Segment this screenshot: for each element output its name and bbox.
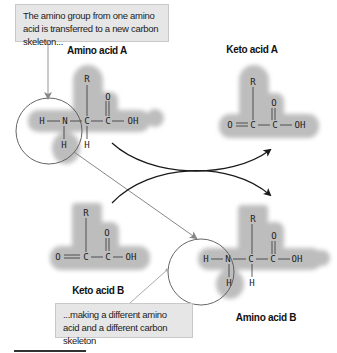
label-amino-acid-b: Amino acid B (236, 312, 296, 323)
atom-c-carboxyl: C (105, 116, 110, 126)
keto-acid-b-molecule: R O O C C OH (50, 203, 150, 270)
label-keto-acid-a: Keto acid A (226, 44, 277, 55)
atom-h: H (203, 254, 208, 264)
atom-r: R (83, 208, 89, 218)
reaction-arrow-a-to-keto-a (112, 143, 270, 171)
atom-h: H (84, 140, 89, 150)
atom-n: N (225, 254, 230, 264)
atom-o: O (271, 98, 276, 108)
atom-c: C (272, 120, 277, 130)
footer-rule (14, 350, 86, 352)
atom-c: C (250, 120, 255, 130)
atom-oh: OH (295, 120, 306, 130)
callout-bottom-pointer-dot (165, 268, 168, 271)
amino-acid-b-molecule: R O H N C C OH H H (168, 205, 330, 305)
atom-r: R (250, 214, 256, 224)
callout-bottom: ...making a different amino acid and a d… (55, 303, 193, 338)
callout-bottom-pointer-line (130, 270, 167, 303)
atom-o: O (104, 228, 109, 238)
atom-r: R (250, 77, 256, 87)
atom-o: O (55, 252, 60, 262)
reaction-arrow-keto-b-to-b (112, 171, 270, 203)
atom-n: N (62, 116, 67, 126)
amino-acid-b-shape (198, 205, 330, 299)
atom-h: H (39, 116, 44, 126)
atom-c-alpha: C (248, 254, 253, 264)
atom-h: H (61, 140, 66, 150)
atom-o: O (271, 231, 276, 241)
atom-h: H (249, 278, 254, 288)
amino-acid-a-molecule: R O H N C C OH H H (16, 65, 164, 164)
label-amino-acid-a: Amino acid A (67, 45, 127, 56)
keto-acid-a-molecule: R O O C C OH (219, 65, 319, 138)
atom-r: R (84, 74, 90, 84)
atom-o: O (227, 120, 232, 130)
atom-oh: OH (128, 116, 139, 126)
atom-c: C (105, 252, 110, 262)
atom-o: O (105, 92, 110, 102)
atom-c-alpha: C (84, 116, 89, 126)
atom-c: C (83, 252, 88, 262)
atom-c-carboxyl: C (270, 254, 275, 264)
atom-oh: OH (126, 252, 137, 262)
atom-oh: OH (292, 254, 303, 264)
transamination-diagram: R O H N C C OH H H R O O C C OH (0, 0, 337, 353)
callout-top: The amino group from one amino acid is t… (15, 4, 169, 42)
label-keto-acid-b: Keto acid B (72, 285, 124, 296)
